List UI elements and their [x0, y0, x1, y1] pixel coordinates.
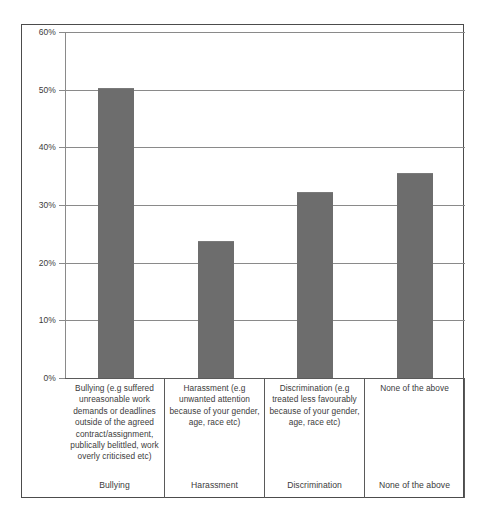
y-tick-label-0: 0%	[22, 374, 56, 383]
y-tick-label-50: 50%	[22, 85, 56, 94]
label-column-bullying: Bullying (e.g suffered unreasonable work…	[65, 379, 164, 498]
bar-none-of-the-above[interactable]	[397, 173, 433, 378]
y-tick-label-40: 40%	[22, 143, 56, 152]
category-description-bullying: Bullying (e.g suffered unreasonable work…	[68, 383, 161, 463]
y-tick-label-30: 30%	[22, 201, 56, 210]
category-description-none-of-the-above: None of the above	[368, 383, 461, 394]
category-name-none-of-the-above: None of the above	[368, 480, 461, 491]
bar-slot-discrimination	[266, 32, 366, 378]
category-description-discrimination: Discrimination (e.g treated less favoura…	[268, 383, 361, 429]
category-name-harassment: Harassment	[168, 480, 261, 491]
category-name-bullying: Bullying	[68, 480, 161, 491]
label-column-harassment: Harassment (e.g unwanted attention becau…	[164, 379, 264, 498]
bar-slot-none-of-the-above	[365, 32, 465, 378]
y-tick-label-10: 10%	[22, 316, 56, 325]
category-label-table: Bullying (e.g suffered unreasonable work…	[65, 378, 465, 498]
bars-area	[66, 32, 465, 378]
category-description-harassment: Harassment (e.g unwanted attention becau…	[168, 383, 261, 429]
bar-slot-harassment	[166, 32, 266, 378]
bar-slot-bullying	[66, 32, 166, 378]
y-tick-label-60: 60%	[22, 28, 56, 37]
bar-harassment[interactable]	[198, 241, 234, 378]
category-name-discrimination: Discrimination	[268, 480, 361, 491]
chart-frame: 60% 50% 40% 30% 20% 10% 0%	[21, 24, 464, 498]
plot-region: 60% 50% 40% 30% 20% 10% 0%	[22, 25, 465, 379]
y-tick-label-20: 20%	[22, 258, 56, 267]
label-column-none-of-the-above: None of the above None of the above	[364, 379, 465, 498]
bar-discrimination[interactable]	[297, 192, 333, 378]
bar-bullying[interactable]	[98, 88, 134, 378]
label-column-discrimination: Discrimination (e.g treated less favoura…	[264, 379, 364, 498]
